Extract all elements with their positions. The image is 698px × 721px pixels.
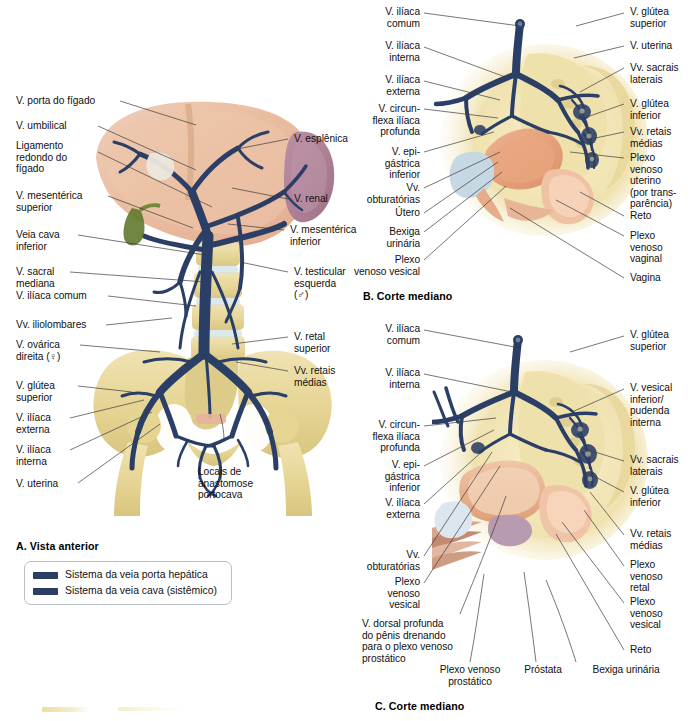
label-c-plexo-venoso-retal: Plexo venoso retal	[630, 559, 663, 594]
label-b-v-glutea-inferior: V. glútea inferior	[630, 98, 669, 121]
footer-rule-right	[118, 707, 188, 711]
label-b-reto: Reto	[630, 210, 651, 222]
label-b-v-glutea-superior: V. glútea superior	[630, 6, 669, 29]
label-v-ovarica-direita: V. ovárica direita (♀)	[16, 339, 60, 362]
label-b-v-epigastrica-inferior: V. epi- gástrica inferior	[300, 146, 420, 181]
label-b-v-circunflexa-iliaca-profunda: V. circun- flexa ilíaca profunda	[300, 103, 420, 138]
panel-b-illustration	[432, 12, 650, 262]
label-c-v-glutea-inferior: V. glútea inferior	[630, 485, 669, 508]
label-locais-anastomose: Locais de anastomose portocava	[198, 466, 253, 501]
label-b-v-uterina: V. uterina	[630, 40, 672, 52]
label-c-v-dorsal-profunda-penis: V. dorsal profunda do pênis drenando par…	[362, 618, 522, 664]
label-c-v-glutea-superior: V. glútea superior	[630, 329, 669, 352]
label-c-v-circunflexa-iliaca-profunda: V. circun- flexa ilíaca profunda	[300, 419, 420, 454]
legend-swatch-veia-cava	[33, 588, 58, 595]
label-c-v-iliaca-interna: V. ilíaca interna	[300, 367, 420, 390]
label-v-iliaca-comum: V. ilíaca comum	[16, 290, 87, 302]
panel-b-title: B. Corte mediano	[363, 290, 452, 302]
label-b-v-iliaca-externa: V. ilíaca externa	[300, 74, 420, 97]
footer-rule-left	[42, 707, 90, 712]
label-c-prostata: Próstata	[512, 664, 574, 676]
label-vv-iliolombares: Vv. iliolombares	[16, 319, 86, 331]
legend-swatch-porta-hepatica	[33, 572, 58, 579]
label-v-porta-figado: V. porta do fígado	[16, 95, 95, 107]
label-b-vv-obturatorias: Vv. obturatórias	[300, 182, 420, 205]
label-c-v-iliaca-comum: V. ilíaca comum	[300, 323, 420, 346]
panel-c-title: C. Corte mediano	[375, 700, 464, 712]
label-b-vv-sacrais-laterais: Vv. sacrais laterais	[630, 62, 679, 85]
label-b-plexo-venoso-vaginal: Plexo venoso vaginal	[630, 230, 663, 265]
panel-a-title: A. Vista anterior	[16, 540, 99, 552]
label-c-plexo-venoso-prostatico: Plexo venoso prostático	[424, 664, 516, 687]
label-c-plexo-venoso-vesical: Plexo venoso vesical	[300, 576, 420, 611]
label-c-bexiga-urinaria: Bexiga urinária	[578, 664, 674, 676]
label-b-bexiga-urinaria: Bexiga urinária	[300, 226, 420, 249]
panel-c-illustration	[432, 326, 650, 594]
label-b-plexo-venoso-uterino: Plexo venoso uterino (por trans- parênci…	[630, 152, 676, 210]
label-b-vagina: Vagina	[630, 272, 661, 284]
legend-item-porta-hepatica: Sistema da veia porta hepática	[33, 567, 221, 583]
label-c-vv-retais-medias: Vv. retais médias	[630, 528, 671, 551]
legend: Sistema da veia porta hepática Sistema d…	[24, 561, 232, 605]
legend-item-veia-cava: Sistema da veia cava (sistêmico)	[33, 583, 221, 599]
label-c-reto: Reto	[630, 644, 651, 656]
label-c-vv-sacrais-laterais: Vv. sacrais laterais	[630, 454, 679, 477]
label-c-vv-obturatorias: Vv. obturatórias	[300, 549, 420, 572]
label-v-iliaca-interna: V. ilíaca interna	[16, 444, 51, 467]
label-c-v-vesical-inferior: V. vesical inferior/ pudenda interna	[630, 382, 672, 428]
label-v-umbilical: V. umbilical	[16, 120, 67, 132]
label-ligamento-redondo: Ligamento redondo do fígado	[16, 140, 67, 175]
label-veia-cava-inferior: Veia cava inferior	[16, 229, 60, 252]
label-c-v-iliaca-externa: V. ilíaca externa	[300, 497, 420, 520]
anatomy-plate: V. porta do fígado V. umbilical Ligament…	[0, 0, 698, 721]
label-c-v-epigastrica-inferior: V. epi- gástrica inferior	[300, 459, 420, 494]
label-v-glutea-superior: V. glútea superior	[16, 380, 55, 403]
label-b-v-iliaca-interna: V. ilíaca interna	[300, 40, 420, 63]
legend-label-porta-hepatica: Sistema da veia porta hepática	[65, 569, 208, 581]
label-v-iliaca-externa: V. ilíaca externa	[16, 412, 51, 435]
label-v-mesenterica-superior: V. mesentérica superior	[16, 190, 82, 213]
label-b-plexo-venoso-vesical: Plexo venoso vesical	[290, 254, 420, 277]
legend-label-veia-cava: Sistema da veia cava (sistêmico)	[65, 585, 217, 597]
label-b-v-iliaca-comum: V. ilíaca comum	[300, 6, 420, 29]
label-v-sacral-mediana: V. sacral mediana	[16, 266, 55, 289]
label-b-utero: Útero	[300, 207, 420, 219]
label-c-plexo-venoso-vesical-2: Plexo venoso vesical	[630, 596, 663, 631]
label-b-vv-retais-medias: Vv. retais médias	[630, 126, 671, 149]
label-v-uterina: V. uterina	[16, 478, 58, 490]
